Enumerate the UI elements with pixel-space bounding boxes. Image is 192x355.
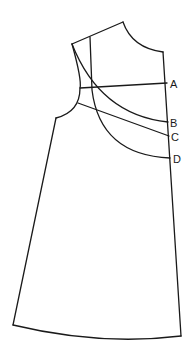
- label-a: A: [170, 78, 178, 90]
- style-line-vertical: [90, 37, 170, 158]
- label-c: C: [171, 131, 179, 143]
- shoulder-line: [72, 22, 123, 44]
- side-seam: [13, 118, 56, 325]
- center-front-line: [163, 52, 181, 336]
- style-line-a: [80, 83, 167, 88]
- neckline-curve: [123, 22, 163, 52]
- pattern-diagram: A B C D: [0, 0, 192, 355]
- label-d: D: [173, 153, 181, 165]
- label-b: B: [170, 117, 177, 129]
- style-line-b: [72, 44, 168, 122]
- hem-curve: [13, 325, 181, 339]
